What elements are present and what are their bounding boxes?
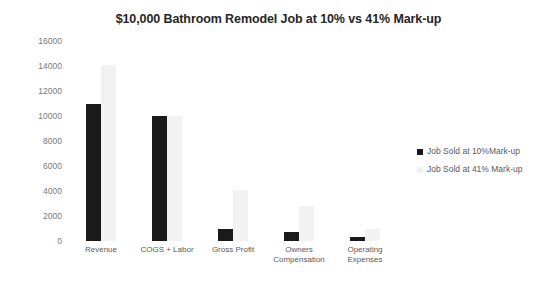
legend-item[interactable]: Job Sold at 41% Mark-up: [417, 165, 553, 174]
bar[interactable]: [152, 116, 167, 241]
bar-group: [68, 41, 134, 241]
y-axis-tick: 0: [0, 237, 62, 246]
x-axis-label: Revenue: [68, 245, 134, 287]
x-axis-label: Gross Profit: [200, 245, 266, 287]
x-axis-label: COGS + Labor: [134, 245, 200, 287]
bar[interactable]: [350, 237, 365, 241]
bar[interactable]: [218, 229, 233, 242]
x-axis-label: Owners Compensation: [266, 245, 332, 287]
legend-label: Job Sold at 41% Mark-up: [427, 165, 522, 174]
bar[interactable]: [284, 232, 299, 241]
legend-swatch-icon: [417, 149, 423, 155]
bar[interactable]: [167, 116, 182, 241]
bar[interactable]: [101, 65, 116, 241]
chart-legend: Job Sold at 10%Mark-upJob Sold at 41% Ma…: [417, 147, 553, 183]
bar[interactable]: [365, 229, 380, 242]
legend-label: Job Sold at 10%Mark-up: [427, 147, 520, 156]
y-axis-tick: 14000: [0, 62, 62, 71]
bar-groups: [68, 41, 398, 241]
bar-group: [332, 41, 398, 241]
bar-group: [266, 41, 332, 241]
bar-chart: $10,000 Bathroom Remodel Job at 10% vs 4…: [0, 0, 557, 292]
x-axis-labels: RevenueCOGS + LaborGross ProfitOwners Co…: [68, 245, 398, 287]
bar[interactable]: [233, 190, 248, 241]
bar[interactable]: [86, 104, 101, 242]
y-axis-tick: 4000: [0, 187, 62, 196]
bar-group: [200, 41, 266, 241]
legend-swatch-icon: [417, 167, 423, 173]
chart-title: $10,000 Bathroom Remodel Job at 10% vs 4…: [0, 12, 557, 26]
y-axis-tick: 6000: [0, 162, 62, 171]
y-axis-tick: 12000: [0, 87, 62, 96]
plot-area: [68, 41, 398, 241]
y-axis-tick: 10000: [0, 112, 62, 121]
bar-group: [134, 41, 200, 241]
y-axis: 1600014000120001000080006000400020000: [0, 41, 62, 241]
x-axis-label: Operating Expenses: [332, 245, 398, 287]
y-axis-tick: 2000: [0, 212, 62, 221]
bar[interactable]: [299, 206, 314, 241]
legend-item[interactable]: Job Sold at 10%Mark-up: [417, 147, 553, 156]
y-axis-tick: 8000: [0, 137, 62, 146]
y-axis-tick: 16000: [0, 37, 62, 46]
